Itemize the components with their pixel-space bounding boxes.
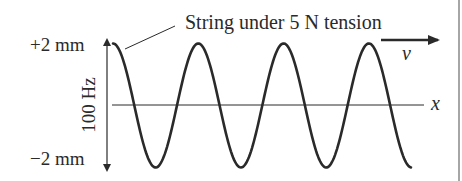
wave-diagram: String under 5 N tension +2 mm −2 mm 100…: [0, 0, 462, 181]
amplitude-bottom-label: −2 mm: [30, 148, 85, 169]
amplitude-top-label: +2 mm: [30, 34, 85, 55]
caption-label: String under 5 N tension: [185, 11, 382, 34]
frequency-label: 100 Hz: [78, 77, 99, 132]
x-axis-label: x: [430, 92, 440, 114]
caption-leader-line: [125, 26, 175, 49]
velocity-label: v: [402, 42, 411, 64]
